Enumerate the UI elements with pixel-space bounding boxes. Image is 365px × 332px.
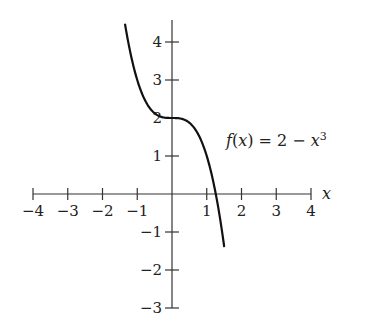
x-ticks: −4−3−2−11234 [22, 188, 316, 220]
x-tick-label: 1 [202, 202, 212, 220]
y-ticks: −3−2−11234 [140, 33, 179, 317]
y-tick-label: −3 [140, 299, 162, 317]
function-label: f(x) = 2 − x3 [226, 130, 327, 150]
function-var: x [311, 131, 320, 150]
x-tick-label: 4 [306, 202, 316, 220]
y-tick-label: −2 [140, 261, 162, 279]
y-tick-label: −1 [140, 223, 162, 241]
x-tick-label: −4 [22, 202, 44, 220]
axes [33, 20, 311, 308]
x-tick-label: 3 [271, 202, 281, 220]
x-tick-label: 2 [237, 202, 247, 220]
x-tick-label: −2 [91, 202, 113, 220]
function-plot: −4−3−2−11234 −3−2−11234 x [0, 0, 365, 332]
function-eq: = 2 − [253, 131, 310, 150]
y-tick-label: 3 [152, 71, 162, 89]
y-tick-label: 1 [152, 147, 162, 165]
x-axis-label: x [322, 184, 331, 203]
function-arg: x [238, 131, 247, 150]
x-tick-label: −3 [57, 202, 79, 220]
function-exponent: 3 [320, 130, 327, 143]
x-tick-label: −1 [126, 202, 148, 220]
y-tick-label: 4 [152, 33, 162, 51]
